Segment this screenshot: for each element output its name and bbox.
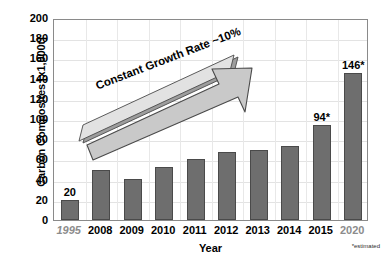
y-axis-tick-40: 40	[22, 175, 48, 186]
bar-2012	[218, 152, 236, 220]
y-axis-tick-80: 80	[22, 134, 48, 145]
bar-2013	[250, 150, 268, 220]
bar-2014	[281, 146, 299, 220]
gridline-v	[212, 20, 213, 220]
gridline-h	[54, 101, 367, 102]
gridline-v	[117, 20, 118, 220]
y-axis-tick-20: 20	[22, 195, 48, 206]
bar-value-2020: 146*	[331, 59, 375, 71]
bar-2015	[313, 125, 331, 220]
y-axis-tick-120: 120	[22, 94, 48, 105]
bar-2020	[344, 73, 362, 220]
bar-2009	[124, 179, 142, 220]
y-axis-tick-160: 160	[22, 53, 48, 64]
y-axis-tick-180: 180	[22, 33, 48, 44]
x-axis-tick-2020: 2020	[330, 224, 374, 236]
y-axis-tick-60: 60	[22, 154, 48, 165]
gridline-h	[54, 60, 367, 61]
y-axis-tick-140: 140	[22, 74, 48, 85]
bar-value-2015: 94*	[300, 111, 344, 123]
bar-1995	[61, 200, 79, 220]
y-axis-tick-labels: 200180160140120100806040200	[18, 0, 48, 268]
bar-2010	[155, 167, 173, 220]
plot-area: 2094*146*	[53, 19, 368, 221]
gridline-v	[149, 20, 150, 220]
bar-2008	[92, 170, 110, 221]
bar-2011	[187, 159, 205, 220]
gridline-v	[275, 20, 276, 220]
gridline-v	[243, 20, 244, 220]
y-axis-tick-100: 100	[22, 114, 48, 125]
chart-figure: Carbon Composites [x1,000t] 200180160140…	[0, 0, 386, 268]
bar-value-1995: 20	[48, 186, 92, 198]
footnote: *estimated	[352, 243, 380, 249]
y-axis-tick-200: 200	[22, 13, 48, 24]
y-axis-tick-0: 0	[22, 215, 48, 226]
x-axis-title: Year	[53, 242, 368, 254]
